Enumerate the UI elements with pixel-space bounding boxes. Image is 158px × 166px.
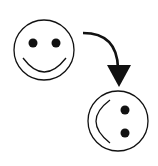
rotation-arrow: [83, 33, 131, 87]
eye-left: [29, 39, 38, 48]
face-outline: [14, 20, 74, 80]
eye-left: [121, 106, 130, 115]
smile-mouth: [96, 100, 110, 143]
smiley-rotated: [88, 91, 148, 151]
eye-right: [52, 39, 61, 48]
face-outline: [88, 91, 148, 151]
arrow-shaft: [83, 33, 118, 68]
eye-right: [121, 129, 130, 138]
smile-mouth: [23, 58, 66, 72]
arrow-head-icon: [107, 65, 131, 87]
smiley-original: [14, 20, 74, 80]
diagram-canvas: [0, 0, 158, 166]
